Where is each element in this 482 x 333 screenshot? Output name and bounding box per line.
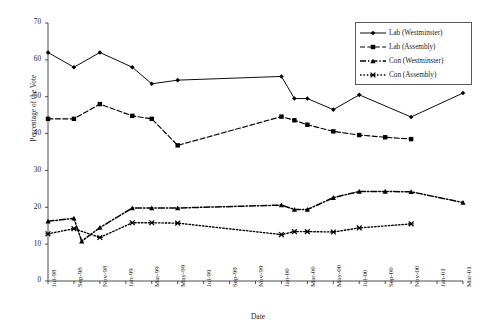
x-axis-tick-jul-98: Jul-98: [51, 270, 58, 288]
x-axis-title-text: Date: [217, 312, 265, 321]
x-axis-tick-nov-99: Nov-99: [258, 266, 265, 287]
legend-item-con-westminster: Con (Westminster): [359, 54, 469, 68]
chart-legend: Lab (Westminster) Lab (Assembly) Con (We…: [355, 22, 472, 85]
x-axis-tick-jul-99: Jul-99: [206, 270, 213, 288]
legend-label-lab-assembly: Lab (Assembly): [387, 43, 436, 51]
y-axis-tick-30: 30: [19, 167, 41, 174]
vote-percentage-line-chart: Percentage of the Vote Date 010203040506…: [0, 0, 482, 333]
legend-swatch-lab-assembly: [359, 42, 387, 52]
y-axis-tick-70: 70: [19, 19, 41, 26]
y-axis-title: Percentage of the Vote: [30, 28, 38, 188]
x-axis-tick-may-99: May-99: [180, 265, 187, 287]
legend-item-lab-westminster: Lab (Westminster): [359, 26, 469, 40]
x-axis-tick-jan-01: Jan-01: [440, 268, 447, 287]
x-axis-tick-jan-99: Jan-99: [128, 268, 135, 287]
legend-swatch-lab-westminster: [359, 28, 387, 38]
x-axis-tick-sep-98: Sep-98: [77, 267, 84, 287]
x-axis-tick-may-00: May-00: [336, 265, 343, 287]
x-axis-tick-jan-00: Jan-00: [284, 268, 291, 287]
legend-item-lab-assembly: Lab (Assembly): [359, 40, 469, 54]
y-axis-tick-20: 20: [19, 204, 41, 211]
legend-label-con-westminster: Con (Westminster): [387, 57, 443, 65]
x-axis-tick-mar-00: Mar-00: [310, 266, 317, 287]
y-axis-tick-40: 40: [19, 130, 41, 137]
y-axis-tick-60: 60: [19, 56, 41, 63]
x-axis-tick-mar-01: Mar-01: [466, 266, 473, 287]
legend-swatch-con-assembly: [359, 70, 387, 80]
legend-swatch-con-westminster: [359, 56, 387, 66]
x-axis-tick-jul-00: Jul-00: [362, 270, 369, 288]
legend-label-con-assembly: Con (Assembly): [387, 71, 436, 79]
y-axis-tick-0: 0: [19, 277, 41, 284]
x-axis-tick-sep-00: Sep-00: [388, 267, 395, 287]
x-axis-tick-mar-99: Mar-99: [154, 266, 161, 287]
y-axis-tick-10: 10: [19, 241, 41, 248]
legend-item-con-assembly: Con (Assembly): [359, 68, 469, 82]
x-axis-tick-nov-98: Nov-98: [102, 266, 109, 287]
y-axis-tick-50: 50: [19, 93, 41, 100]
x-axis-title: Date: [0, 312, 482, 321]
x-axis-tick-sep-99: Sep-99: [232, 267, 239, 287]
x-axis-tick-nov-00: Nov-00: [414, 266, 421, 287]
legend-label-lab-westminster: Lab (Westminster): [387, 29, 443, 37]
